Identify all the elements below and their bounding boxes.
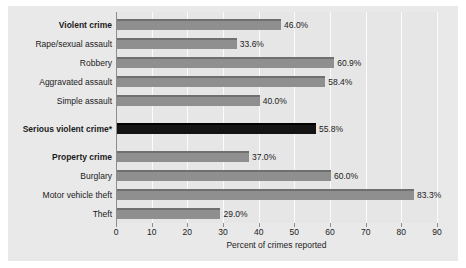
category-label: Violent crime: [8, 18, 112, 32]
bar: [117, 57, 334, 68]
category-label: Burglary: [8, 169, 112, 183]
x-tick-label: 30: [213, 227, 233, 237]
category-label: Robbery: [8, 56, 112, 70]
bar: [117, 123, 316, 134]
bar-value-label: 58.4%: [328, 75, 352, 89]
category-label: Rape/sexual assault: [8, 37, 112, 51]
bar-row: Violent crime46.0%: [8, 18, 458, 32]
bar-row: Robbery60.9%: [8, 56, 458, 70]
x-tick-label: 10: [142, 227, 162, 237]
bar: [117, 95, 260, 106]
x-tick-label: 60: [320, 227, 340, 237]
category-label: Serious violent crime*: [8, 122, 112, 136]
chart-figure: Violent crime46.0%Rape/sexual assault33.…: [8, 6, 458, 261]
category-label: Simple assault: [8, 94, 112, 108]
x-tick-label: 90: [427, 227, 447, 237]
category-label: Property crime: [8, 150, 112, 164]
bar-row: Rape/sexual assault33.6%: [8, 37, 458, 51]
bar-value-label: 29.0%: [223, 207, 247, 221]
bar-value-label: 40.0%: [263, 94, 287, 108]
bar: [117, 170, 331, 181]
bar: [117, 38, 237, 49]
bar: [117, 76, 325, 87]
bar-value-label: 60.0%: [334, 169, 358, 183]
bar-value-label: 60.9%: [337, 56, 361, 70]
x-tick-label: 40: [249, 227, 269, 237]
x-axis-label: Percent of crimes reported: [116, 240, 437, 250]
bar-value-label: 33.6%: [240, 37, 264, 51]
bar-value-label: 55.8%: [319, 122, 343, 136]
x-tick-label: 70: [356, 227, 376, 237]
x-tick-label: 80: [391, 227, 411, 237]
bar-value-label: 83.3%: [417, 188, 441, 202]
bar: [117, 208, 220, 219]
bar: [117, 151, 249, 162]
bar-row: Motor vehicle theft83.3%: [8, 188, 458, 202]
bar-row: Burglary60.0%: [8, 169, 458, 183]
category-label: Motor vehicle theft: [8, 188, 112, 202]
bar-row: Serious violent crime*55.8%: [8, 122, 458, 136]
category-label: Theft: [8, 207, 112, 221]
x-tick-label: 20: [177, 227, 197, 237]
bar-row: Theft29.0%: [8, 207, 458, 221]
category-label: Aggravated assault: [8, 75, 112, 89]
bar-row: Simple assault40.0%: [8, 94, 458, 108]
bar-value-label: 37.0%: [252, 150, 276, 164]
bar-value-label: 46.0%: [284, 18, 308, 32]
x-tick-label: 0: [106, 227, 126, 237]
bar-row: Property crime37.0%: [8, 150, 458, 164]
bar: [117, 189, 414, 200]
x-tick-label: 50: [284, 227, 304, 237]
bar-row: Aggravated assault58.4%: [8, 75, 458, 89]
bar: [117, 19, 281, 30]
